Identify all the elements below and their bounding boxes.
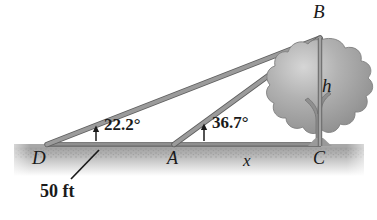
label-height-h: h [322, 76, 332, 95]
label-point-a: A [167, 149, 178, 167]
label-angle-at-d: 22.2° [104, 116, 141, 133]
label-point-d: D [32, 148, 46, 167]
label-point-c: C [313, 149, 325, 167]
label-angle-at-a: 36.7° [212, 114, 249, 131]
label-baseline-length: 50 ft [40, 182, 75, 200]
tree-height-diagram: D A C B h x 22.2° 36.7° 50 ft [0, 0, 377, 220]
baseline-dc [47, 143, 321, 147]
label-distance-x: x [243, 152, 251, 169]
label-point-b: B [313, 2, 325, 21]
